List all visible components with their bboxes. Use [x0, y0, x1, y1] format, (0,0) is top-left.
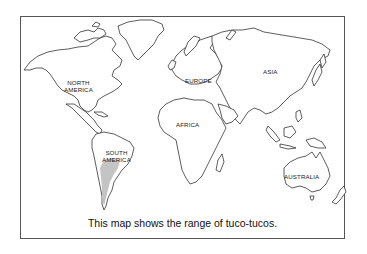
label-south-america-line1: SOUTH [102, 149, 131, 156]
label-north-america-line1: NORTH [64, 79, 93, 86]
caribbean-islands [94, 112, 108, 117]
new-zealand [332, 186, 346, 204]
tuco-tuco-range [100, 158, 120, 206]
label-south-america-line2: AMERICA [102, 156, 131, 163]
label-north-america: NORTH AMERICA [64, 79, 93, 93]
philippines [296, 110, 302, 122]
label-australia: AUSTRALIA [284, 173, 319, 180]
borneo [284, 126, 296, 138]
greenland [118, 20, 164, 60]
label-south-america: SOUTH AMERICA [102, 149, 131, 163]
map-caption: This map shows the range of tuco-tucos. [20, 217, 345, 229]
java [280, 144, 296, 149]
sumatra [266, 126, 280, 142]
label-africa: AFRICA [176, 121, 199, 128]
new-guinea [306, 138, 326, 148]
tasmania [310, 196, 314, 200]
label-asia: ASIA [263, 68, 278, 75]
africa-landmass [158, 98, 226, 184]
madagascar [216, 154, 224, 172]
australia-landmass [284, 152, 330, 192]
arctic-island-small [92, 22, 100, 27]
label-north-america-line2: AMERICA [64, 86, 93, 93]
label-europe: EUROPE [185, 77, 212, 84]
north-america-landmass [24, 36, 122, 112]
